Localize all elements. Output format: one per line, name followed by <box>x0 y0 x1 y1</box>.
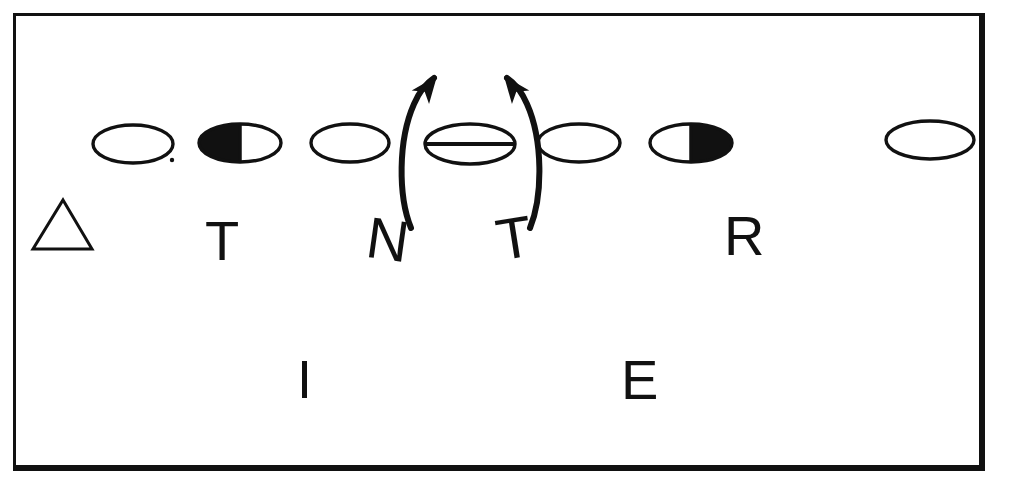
border-top <box>13 13 985 16</box>
ink-speck-dot <box>170 158 174 162</box>
background-rect <box>0 0 1009 486</box>
border-right <box>979 13 985 471</box>
border-bottom <box>13 465 985 471</box>
border-left <box>13 13 16 471</box>
diagram-svg <box>0 0 1009 486</box>
diagram-canvas: TNTRIE <box>0 0 1009 486</box>
